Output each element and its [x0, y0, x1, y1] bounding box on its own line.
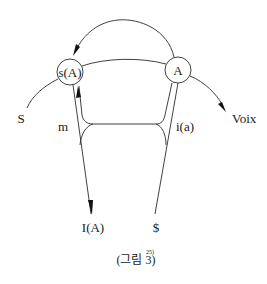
figure-footnote-mark: 25)	[146, 249, 154, 256]
left-inner-line	[79, 86, 93, 124]
label-i-a: i(a)	[176, 119, 194, 134]
label-Voix: Voix	[232, 111, 257, 126]
top-return-arc	[76, 20, 174, 57]
node-s-A-label: s(A)	[58, 65, 81, 80]
graph-of-desire-diagram: s(A) A S Voix m i(a) I(A) $ (그림 3) 25)	[0, 0, 267, 284]
voix-arrowhead	[218, 102, 226, 112]
top-arc-arrowhead	[73, 44, 80, 56]
lower-right-curve	[156, 124, 166, 145]
lower-left-curve	[80, 124, 93, 145]
voix-curve	[190, 76, 222, 104]
label-S: S	[17, 111, 24, 126]
middle-arc	[82, 59, 166, 66]
figure-caption: (그림 3)	[117, 253, 156, 267]
left-inner-arrowhead	[76, 86, 81, 98]
right-inner-line	[156, 83, 172, 124]
left-outer-line	[73, 85, 91, 214]
node-A-label: A	[173, 63, 183, 78]
label-m: m	[58, 119, 68, 134]
s-curve	[27, 79, 58, 108]
label-I-A: I(A)	[82, 220, 104, 235]
right-outer-line	[155, 83, 178, 214]
label-barred-S: $	[153, 220, 160, 235]
